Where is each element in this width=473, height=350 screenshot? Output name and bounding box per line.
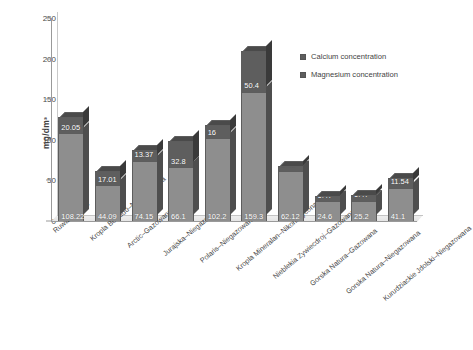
plot-area: 20.05108.2217.0144.0913.3774.1532.866.11… bbox=[51, 18, 417, 221]
bar-value-label-calcium: 25.2 bbox=[352, 213, 369, 222]
bar-side-face bbox=[340, 190, 346, 215]
bar-group[interactable]: 6.4724.6 bbox=[315, 196, 341, 221]
bar-value-label-magnesium: 16 bbox=[206, 129, 216, 139]
bar-side-face bbox=[157, 150, 163, 215]
x-axis-category-label: Kurudziackie Jdolski–Niegazowana bbox=[381, 224, 473, 303]
legend-item-label: Calcium concentration bbox=[311, 52, 386, 61]
bar-segment-calcium[interactable]: 108.22 bbox=[58, 133, 84, 221]
bar-segment-magnesium[interactable]: 32.8 bbox=[168, 141, 194, 168]
bar-segment-calcium[interactable]: 62.12 bbox=[278, 171, 304, 221]
legend-item[interactable]: Magnesium concentration bbox=[300, 70, 398, 79]
bar-segment-calcium[interactable]: 41.1 bbox=[388, 188, 414, 221]
bar-side-face bbox=[83, 122, 89, 215]
legend-swatch-icon bbox=[300, 54, 306, 60]
bar-value-label-magnesium: 11.54 bbox=[389, 178, 409, 188]
bar-side-face bbox=[266, 81, 272, 215]
x-axis-line bbox=[51, 221, 417, 222]
legend-item[interactable]: Calcium concentration bbox=[300, 52, 398, 61]
bar-segment-magnesium[interactable]: 20.05 bbox=[58, 117, 84, 133]
bar-side-face bbox=[120, 174, 126, 215]
bar-value-label-calcium: 66.1 bbox=[169, 213, 186, 222]
bar-group[interactable]: 17.0144.09 bbox=[95, 171, 121, 221]
bar-segment-calcium[interactable]: 102.2 bbox=[205, 138, 231, 221]
bar-value-label-calcium: 24.6 bbox=[316, 213, 333, 222]
bar-segment-calcium[interactable]: 159.3 bbox=[241, 92, 267, 221]
bar-value-label-calcium: 102.2 bbox=[206, 213, 227, 222]
bar-segment-magnesium[interactable]: 50.4 bbox=[241, 51, 267, 92]
bar-value-label-magnesium: 50.4 bbox=[242, 82, 259, 92]
bar-segment-magnesium[interactable]: 11.54 bbox=[388, 178, 414, 187]
bar-group[interactable]: 16102.2 bbox=[205, 125, 231, 221]
bar-segment-calcium[interactable]: 25.2 bbox=[351, 201, 377, 221]
x-axis-category-label: Gorska Natura–Gazowana bbox=[308, 226, 379, 288]
bar-group[interactable]: 32.866.1 bbox=[168, 141, 194, 221]
bar-value-label-magnesium: 32.8 bbox=[169, 158, 186, 168]
bar-value-label-magnesium: 17.01 bbox=[96, 176, 117, 186]
bar-side-face bbox=[303, 160, 309, 215]
bar-value-label-calcium: 41.1 bbox=[389, 213, 406, 222]
bar-group[interactable]: 13.3774.15 bbox=[132, 150, 158, 221]
bar-side-face bbox=[230, 127, 236, 215]
bar-side-face bbox=[376, 190, 382, 215]
bar-group[interactable]: 6.4725.2 bbox=[351, 195, 377, 221]
bar-side-face bbox=[266, 40, 272, 86]
bar-value-label-calcium: 62.12 bbox=[279, 213, 300, 222]
bar-segment-calcium[interactable]: 44.09 bbox=[95, 185, 121, 221]
bar-group[interactable]: 11.5441.1 bbox=[388, 178, 414, 221]
bar-value-label-magnesium: 13.37 bbox=[133, 151, 154, 161]
bar-value-label-calcium: 108.22 bbox=[59, 213, 84, 222]
bar-segment-magnesium[interactable]: 13.37 bbox=[132, 150, 158, 161]
legend-swatch-icon bbox=[300, 72, 306, 78]
bar-group[interactable]: 50.4159.3 bbox=[241, 51, 267, 221]
bar-segment-calcium[interactable]: 74.15 bbox=[132, 161, 158, 221]
bar-segment-calcium[interactable]: 66.1 bbox=[168, 167, 194, 221]
bar-value-label-calcium: 159.3 bbox=[242, 213, 263, 222]
bar-group[interactable]: 20.05108.22 bbox=[58, 117, 84, 221]
bar-side-face bbox=[413, 177, 419, 215]
chart-legend: Calcium concentrationMagnesium concentra… bbox=[300, 52, 398, 88]
legend-item-label: Magnesium concentration bbox=[311, 70, 398, 79]
bar-side-face bbox=[193, 156, 199, 215]
bar-group[interactable]: 6.0862.12 bbox=[278, 166, 304, 221]
bar-value-label-magnesium: 20.05 bbox=[59, 124, 80, 134]
x-axis-category-label: Gorska Natura–Niegazowana bbox=[344, 228, 422, 296]
bar-segment-magnesium[interactable]: 17.01 bbox=[95, 171, 121, 185]
bar-value-label-calcium: 44.09 bbox=[96, 213, 117, 222]
bar-series-group: 20.05108.2217.0144.0913.3774.1532.866.11… bbox=[51, 18, 417, 221]
bar-segment-calcium[interactable]: 24.6 bbox=[315, 201, 341, 221]
bar-value-label-calcium: 74.15 bbox=[133, 213, 154, 222]
bar-segment-magnesium[interactable]: 16 bbox=[205, 125, 231, 138]
